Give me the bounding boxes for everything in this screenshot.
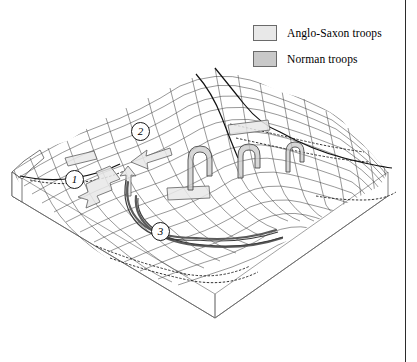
legend: Anglo-Saxon troops Norman troops <box>253 22 403 74</box>
map-marker-3[interactable]: 3 <box>151 222 170 241</box>
troop-hook-arrow-1 <box>188 146 212 190</box>
terrain-left-cutaway <box>12 150 44 202</box>
legend-item-anglo-saxon: Anglo-Saxon troops <box>253 22 403 44</box>
legend-swatch-norman <box>253 51 277 67</box>
troop-arrow-1 <box>78 166 120 208</box>
legend-label-anglo-saxon: Anglo-Saxon troops <box>287 27 382 40</box>
legend-swatch-anglo-saxon <box>253 25 277 41</box>
figure-canvas: 1 2 3 Anglo-Saxon troops Norman troops <box>0 0 417 362</box>
map-marker-1[interactable]: 1 <box>65 170 84 189</box>
troop-symbol-norman-group <box>188 142 304 190</box>
map-marker-2[interactable]: 2 <box>131 122 150 141</box>
troop-bar-1 <box>65 151 97 166</box>
legend-label-norman: Norman troops <box>287 53 358 66</box>
legend-item-norman: Norman troops <box>253 48 403 70</box>
troop-hook-arrow-3 <box>286 142 304 172</box>
troop-arrow-2 <box>131 148 172 169</box>
